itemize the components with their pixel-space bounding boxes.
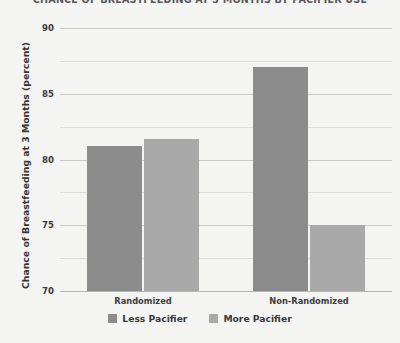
y-axis-tick-label: 80 bbox=[14, 155, 54, 165]
bar-more-pacifier-randomized bbox=[144, 139, 199, 292]
y-axis-tick-label: 70 bbox=[14, 286, 54, 296]
legend-item[interactable]: More Pacifier bbox=[209, 313, 291, 324]
bar-less-pacifier-randomized bbox=[87, 146, 142, 291]
x-axis-baseline bbox=[60, 291, 392, 292]
gridline-minor bbox=[60, 127, 392, 128]
legend-item[interactable]: Less Pacifier bbox=[108, 313, 187, 324]
legend-swatch-icon bbox=[108, 314, 117, 323]
legend-swatch-icon bbox=[209, 314, 218, 323]
y-axis-tick-labels: 7075808590 bbox=[0, 28, 60, 291]
bar-chart: CHANCE OF BREASTFEEDING AT 3 MONTHS BY P… bbox=[0, 0, 400, 343]
gridline-major bbox=[60, 94, 392, 95]
bar-less-pacifier-non-randomized bbox=[253, 67, 308, 291]
y-axis-tick-label: 85 bbox=[14, 89, 54, 99]
plot-area bbox=[60, 28, 392, 291]
legend-label: Less Pacifier bbox=[122, 313, 187, 324]
gridline-minor bbox=[60, 61, 392, 62]
chart-title: CHANCE OF BREASTFEEDING AT 3 MONTHS BY P… bbox=[0, 0, 400, 4]
gridline-major bbox=[60, 28, 392, 29]
bar-more-pacifier-non-randomized bbox=[310, 225, 365, 291]
y-axis-tick-label: 90 bbox=[14, 23, 54, 33]
x-axis-category-label: Randomized bbox=[114, 296, 171, 306]
y-axis-tick-label: 75 bbox=[14, 220, 54, 230]
x-axis-category-label: Non-Randomized bbox=[269, 296, 348, 306]
legend-label: More Pacifier bbox=[223, 313, 291, 324]
chart-legend: Less PacifierMore Pacifier bbox=[0, 313, 400, 324]
